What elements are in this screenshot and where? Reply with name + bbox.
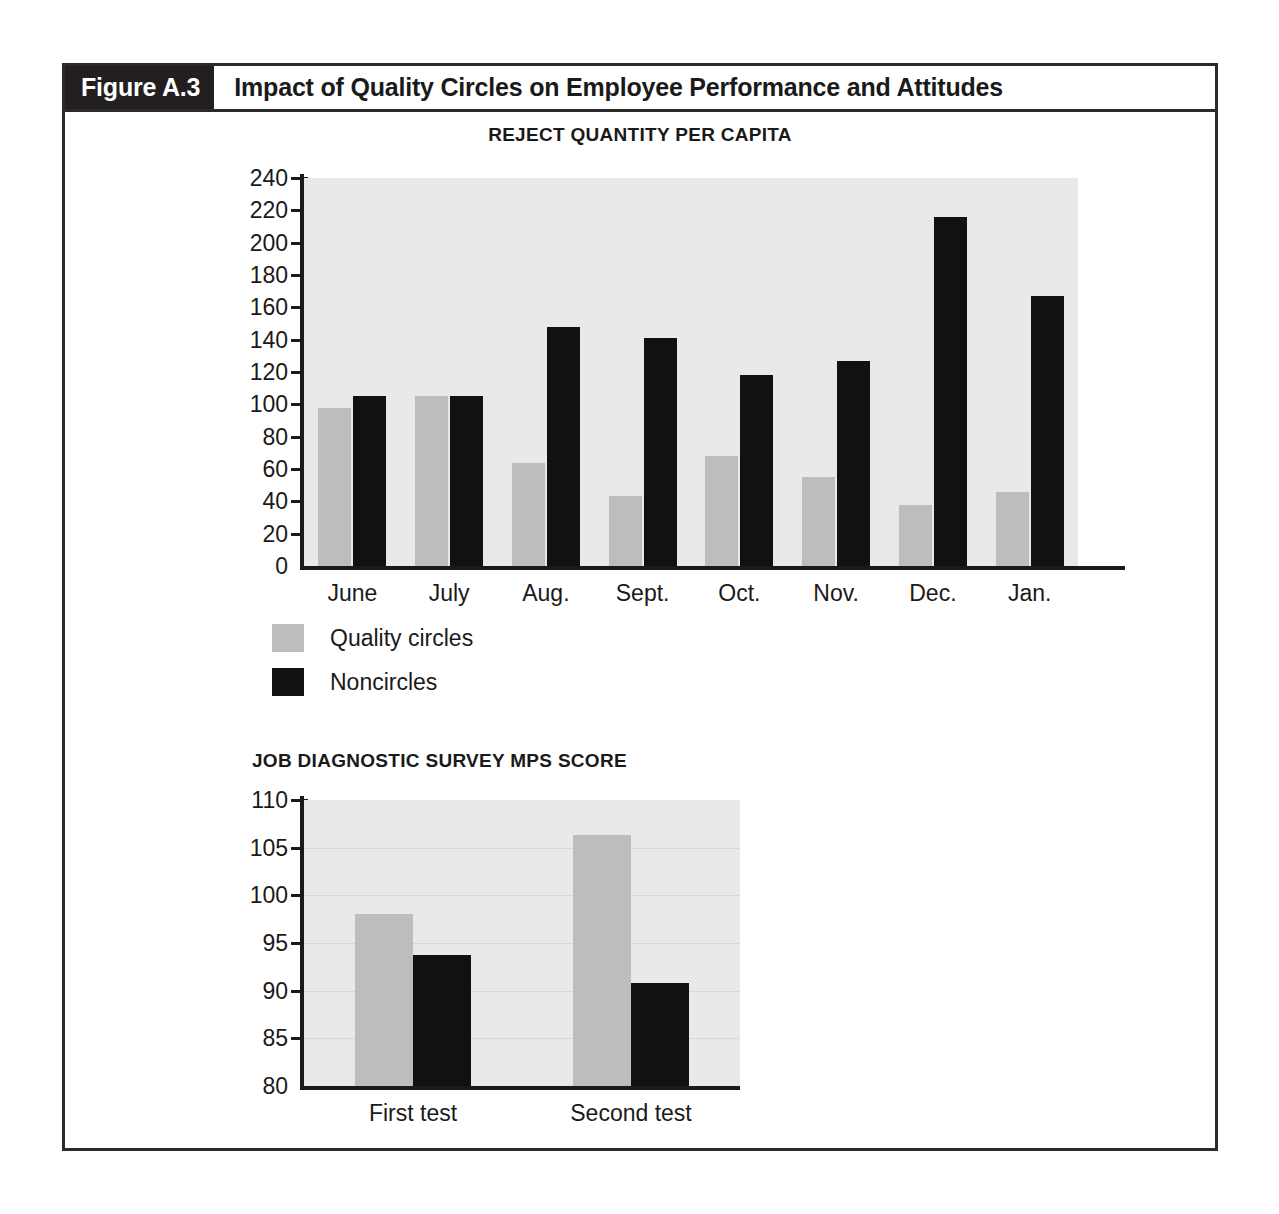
legend-item: Quality circles <box>272 624 473 652</box>
bar-quality-circles <box>705 456 738 566</box>
chart1-plot-area <box>304 178 1078 566</box>
chart2-x-axis-line <box>300 1086 740 1090</box>
bar-noncircles <box>413 955 471 1086</box>
y-axis-tick-label: 180 <box>250 262 288 289</box>
chart1-x-axis-line <box>300 566 1125 570</box>
y-axis-tick-label: 0 <box>275 553 288 580</box>
x-axis-tick-label: Dec. <box>909 580 956 607</box>
x-axis-tick-label: Nov. <box>813 580 859 607</box>
gridline <box>304 848 740 849</box>
y-axis-tick-label: 160 <box>250 294 288 321</box>
bar-noncircles <box>547 327 580 566</box>
bar-noncircles <box>644 338 677 566</box>
bar-quality-circles <box>802 477 835 566</box>
chart1-title: REJECT QUANTITY PER CAPITA <box>65 124 1215 146</box>
bar-noncircles <box>837 361 870 566</box>
y-axis-tick-label: 140 <box>250 326 288 353</box>
y-axis-tick-label: 105 <box>250 834 288 861</box>
x-axis-tick-label: Oct. <box>718 580 760 607</box>
y-axis-tick-label: 85 <box>262 1025 288 1052</box>
legend-swatch-quality-circles <box>272 624 304 652</box>
legend-label: Quality circles <box>330 625 473 652</box>
y-axis-tick-label: 20 <box>262 520 288 547</box>
bar-quality-circles <box>355 914 413 1086</box>
legend-item: Noncircles <box>272 668 473 696</box>
legend-label: Noncircles <box>330 669 437 696</box>
bar-noncircles <box>353 396 386 566</box>
gridline <box>304 895 740 896</box>
y-axis-tick-label: 80 <box>262 423 288 450</box>
bar-quality-circles <box>512 463 545 566</box>
y-axis-tick-label: 100 <box>250 882 288 909</box>
y-axis-tick-label: 200 <box>250 229 288 256</box>
bar-quality-circles <box>996 492 1029 566</box>
chart1-y-axis-labels: 020406080100120140160180200220240 <box>205 178 288 566</box>
chart2-title: JOB DIAGNOSTIC SURVEY MPS SCORE <box>252 750 627 772</box>
figure-number-badge: Figure A.3 <box>65 66 214 109</box>
y-axis-tick-label: 240 <box>250 165 288 192</box>
chart2-plot: 80859095100105110 First testSecond test <box>205 794 845 1124</box>
y-axis-tick-label: 120 <box>250 359 288 386</box>
legend-swatch-noncircles <box>272 668 304 696</box>
chart2-y-axis-labels: 80859095100105110 <box>205 800 288 1086</box>
bar-noncircles <box>1031 296 1064 566</box>
y-axis-tick-label: 220 <box>250 197 288 224</box>
y-axis-tick-label: 80 <box>262 1073 288 1100</box>
bar-quality-circles <box>609 496 642 566</box>
x-axis-tick-label: Sept. <box>616 580 670 607</box>
x-axis-tick-label: July <box>429 580 470 607</box>
figure-header: Figure A.3 Impact of Quality Circles on … <box>65 66 1215 112</box>
x-axis-tick-label: Jan. <box>1008 580 1051 607</box>
bar-quality-circles <box>415 396 448 566</box>
y-axis-tick-label: 95 <box>262 930 288 957</box>
y-axis-tick-label: 60 <box>262 456 288 483</box>
x-axis-tick-label: Second test <box>570 1100 691 1127</box>
bar-noncircles <box>740 375 773 566</box>
bar-noncircles <box>934 217 967 566</box>
y-axis-tick-label: 40 <box>262 488 288 515</box>
bar-quality-circles <box>573 835 631 1086</box>
bar-noncircles <box>450 396 483 566</box>
x-axis-tick-label: First test <box>369 1100 457 1127</box>
x-axis-tick-label: Aug. <box>522 580 569 607</box>
figure-frame: Figure A.3 Impact of Quality Circles on … <box>62 63 1218 1151</box>
y-axis-tick-label: 90 <box>262 977 288 1004</box>
y-axis-tick-label: 110 <box>251 787 288 814</box>
bar-quality-circles <box>899 505 932 566</box>
bar-quality-circles <box>318 408 351 566</box>
x-axis-tick-label: June <box>327 580 377 607</box>
bar-noncircles <box>631 983 689 1086</box>
chart2-plot-area <box>304 800 740 1086</box>
figure-title: Impact of Quality Circles on Employee Pe… <box>214 66 1215 109</box>
y-axis-tick-label: 100 <box>250 391 288 418</box>
chart1-legend: Quality circles Noncircles <box>272 624 473 712</box>
chart1-plot: 020406080100120140160180200220240 JuneJu… <box>205 172 1125 612</box>
